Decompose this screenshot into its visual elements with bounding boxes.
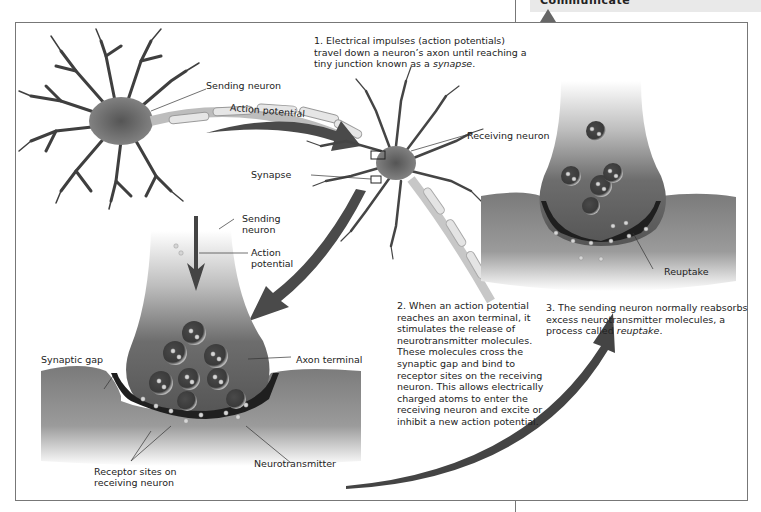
label-neurotransmitter: Neurotransmitter [254, 458, 336, 469]
synapse-box-2 [371, 176, 381, 183]
label-sending-neuron-mid-2: neuron [242, 224, 275, 235]
column-divider-bottom [515, 500, 516, 512]
label-receptor-sites-2: receiving neuron [94, 477, 174, 488]
step-2-text: 2. When an action potential reaches an a… [397, 300, 557, 428]
step-1-term: synapse [433, 58, 472, 69]
label-receiving-neuron: Receiving neuron [467, 130, 549, 141]
figure-frame: 1. Electrical impulses (action potential… [15, 22, 748, 501]
label-synaptic-gap: Synaptic gap [41, 354, 103, 365]
label-sending-neuron-top: Sending neuron [206, 80, 281, 91]
section-header-title: Communicate [540, 0, 630, 7]
step-1-body: Electrical impulses (action potentials) … [314, 35, 527, 69]
step-3-text: 3. The sending neuron normally reabsorbs… [546, 302, 756, 337]
step-3-term: reuptake [617, 325, 660, 336]
label-axon-terminal: Axon terminal [296, 354, 362, 365]
label-sending-neuron-mid-1: Sending [242, 213, 281, 224]
step-1-number: 1. [314, 35, 323, 46]
label-receptor-sites-1: Receptor sites on [94, 466, 177, 477]
step-2-number: 2. [397, 300, 406, 311]
pointer-triangle-icon [540, 9, 556, 22]
column-divider-top [515, 0, 516, 22]
sending-soma [89, 97, 153, 145]
step-1-suffix: . [472, 58, 475, 69]
neuron-illustration [16, 23, 747, 500]
label-action-potential-mid-1: Action [251, 247, 281, 258]
receiving-axon [411, 179, 491, 301]
step-3-suffix: . [659, 325, 662, 336]
step-1-text: 1. Electrical impulses (action potential… [314, 35, 534, 70]
label-reuptake: Reuptake [664, 266, 709, 277]
label-synapse: Synapse [251, 169, 291, 180]
label-action-potential-mid-2: potential [251, 258, 293, 269]
step-3-number: 3. [546, 302, 555, 313]
step-2-body: When an action potential reaches an axon… [397, 300, 543, 427]
